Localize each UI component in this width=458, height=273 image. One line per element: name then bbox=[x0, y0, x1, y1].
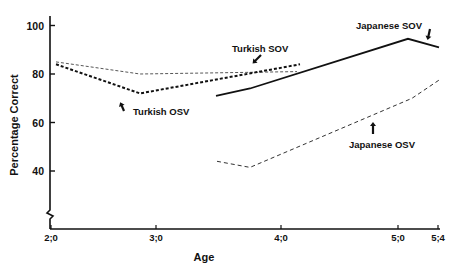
y-tick-label: 80 bbox=[32, 68, 44, 80]
annotations: Turkish SOVTurkish OSVJapanese SOVJapane… bbox=[119, 20, 431, 150]
x-tick-label: 5;4 bbox=[431, 232, 445, 243]
y-axis-label: Percentage Correct bbox=[8, 74, 20, 176]
x-tick-label: 4;0 bbox=[274, 232, 288, 243]
y-tick-label: 100 bbox=[26, 20, 44, 32]
arrowhead-icon bbox=[370, 122, 376, 126]
x-tick-label: 2;0 bbox=[44, 232, 58, 243]
arrowhead-icon bbox=[426, 35, 432, 40]
x-axis-label: Age bbox=[194, 251, 215, 263]
line-chart: 406080100 2;03;04;05;05;4 Turkish SOVTur… bbox=[0, 0, 458, 273]
x-tick-label: 5;0 bbox=[391, 232, 405, 243]
x-ticks: 2;03;04;05;05;4 bbox=[44, 225, 445, 243]
annotation-label: Turkish SOV bbox=[232, 43, 289, 54]
series-japanese-osv bbox=[217, 80, 439, 167]
y-tick-label: 60 bbox=[32, 117, 44, 129]
series-turkish-osv bbox=[56, 64, 300, 93]
chart-container: 406080100 2;03;04;05;05;4 Turkish SOVTur… bbox=[0, 0, 458, 273]
annotation-label: Japanese OSV bbox=[349, 139, 416, 150]
y-tick-label: 40 bbox=[32, 165, 44, 177]
x-tick-label: 3;0 bbox=[149, 232, 163, 243]
annotation-label: Turkish OSV bbox=[133, 106, 190, 117]
annotation-label: Japanese SOV bbox=[356, 20, 423, 31]
